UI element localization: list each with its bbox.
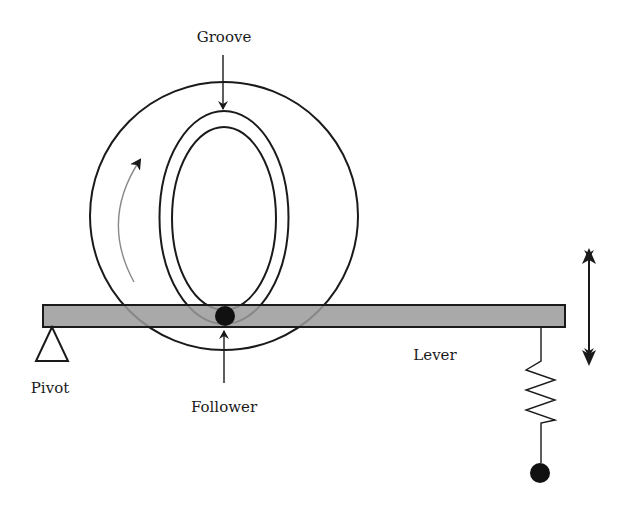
groove-label: Groove: [197, 28, 252, 46]
lever-bar: [43, 305, 565, 327]
rotation-arrow-icon: [118, 160, 140, 282]
cam-lever-diagram: Groove Pivot Follower Lever: [0, 0, 625, 508]
follower-dot: [215, 306, 235, 326]
spring-anchor-dot: [530, 463, 550, 483]
groove-inner-edge: [172, 127, 276, 310]
pivot-label: Pivot: [31, 379, 69, 397]
spring-icon: [526, 327, 555, 463]
lever-label: Lever: [413, 346, 457, 364]
groove-outer-edge: [160, 111, 289, 324]
pivot-triangle-icon: [36, 327, 68, 361]
follower-label: Follower: [191, 398, 258, 416]
